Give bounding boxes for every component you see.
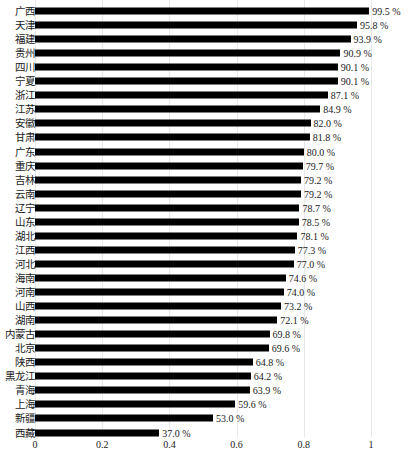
bar-row: 湖北78.1 % xyxy=(0,229,408,243)
x-axis-tick-label: 0.8 xyxy=(298,439,311,451)
category-label: 青海 xyxy=(15,385,35,396)
bar-row: 重庆79.7 % xyxy=(0,159,408,173)
bar-value-label: 69.6 % xyxy=(269,343,300,354)
bar xyxy=(35,359,253,366)
bar-value-label: 69.8 % xyxy=(270,329,301,340)
bar-row: 四川90.1 % xyxy=(0,60,408,74)
bar xyxy=(35,106,320,113)
bar-row: 山西73.2 % xyxy=(0,299,408,313)
bar-value-label: 90.1 % xyxy=(338,76,369,87)
category-label: 海南 xyxy=(15,272,35,283)
bar-value-label: 77.3 % xyxy=(295,244,326,255)
category-label: 江苏 xyxy=(15,104,35,115)
bar xyxy=(35,260,294,267)
category-label: 广东 xyxy=(15,146,35,157)
category-label: 陕西 xyxy=(15,357,35,368)
bar-row: 福建93.9 % xyxy=(0,32,408,46)
bar xyxy=(35,64,338,71)
bar-value-label: 80.0 % xyxy=(304,146,335,157)
bar-value-label: 64.8 % xyxy=(253,357,284,368)
bar-value-label: 81.8 % xyxy=(310,132,341,143)
bar xyxy=(35,134,310,141)
bar-row: 陕西64.8 % xyxy=(0,355,408,369)
category-label: 湖南 xyxy=(15,315,35,326)
bar xyxy=(35,232,297,239)
bar-row: 辽宁78.7 % xyxy=(0,201,408,215)
category-label: 云南 xyxy=(15,188,35,199)
bar-row: 湖南72.1 % xyxy=(0,313,408,327)
x-axis-tick-label: 1 xyxy=(369,439,374,451)
bar xyxy=(35,429,159,436)
category-label: 重庆 xyxy=(15,160,35,171)
bar-value-label: 90.9 % xyxy=(340,48,371,59)
bar-value-label: 59.6 % xyxy=(235,399,266,410)
bar xyxy=(35,190,301,197)
bar-value-label: 78.7 % xyxy=(299,202,330,213)
bar-row: 广西99.5 % xyxy=(0,4,408,18)
bar-value-label: 64.2 % xyxy=(251,371,282,382)
category-label: 浙江 xyxy=(15,90,35,101)
category-label: 四川 xyxy=(15,62,35,73)
category-label: 江西 xyxy=(15,244,35,255)
category-label: 广西 xyxy=(15,6,35,17)
bar-row: 山东78.5 % xyxy=(0,215,408,229)
x-axis-tick-label: 0 xyxy=(33,439,38,451)
category-label: 辽宁 xyxy=(15,202,35,213)
bar-value-label: 63.9 % xyxy=(250,385,281,396)
bar-row: 贵州90.9 % xyxy=(0,46,408,60)
bar xyxy=(35,148,304,155)
bar xyxy=(35,246,295,253)
bar-value-label: 78.1 % xyxy=(297,230,328,241)
bar xyxy=(35,162,303,169)
category-label: 黑龙江 xyxy=(5,371,35,382)
bar xyxy=(35,218,299,225)
bar-value-label: 53.0 % xyxy=(213,413,244,424)
category-label: 山西 xyxy=(15,301,35,312)
bar xyxy=(35,317,277,324)
bar-value-label: 73.2 % xyxy=(281,301,312,312)
bar xyxy=(35,331,270,338)
bar-value-label: 74.0 % xyxy=(284,287,315,298)
bar-value-label: 79.2 % xyxy=(301,188,332,199)
bar xyxy=(35,50,340,57)
bar-value-label: 95.8 % xyxy=(357,20,388,31)
bar-row: 甘肃81.8 % xyxy=(0,130,408,144)
bar-row: 宁夏90.1 % xyxy=(0,74,408,88)
category-label: 天津 xyxy=(15,20,35,31)
bar-value-label: 74.6 % xyxy=(286,272,317,283)
bar-value-label: 90.1 % xyxy=(338,62,369,73)
bar-row: 北京69.6 % xyxy=(0,341,408,355)
bar-row: 新疆53.0 % xyxy=(0,411,408,425)
category-label: 贵州 xyxy=(15,48,35,59)
category-label: 河北 xyxy=(15,258,35,269)
bar-row: 内蒙古69.8 % xyxy=(0,327,408,341)
category-label: 宁夏 xyxy=(15,76,35,87)
bar xyxy=(35,373,251,380)
x-axis: 00.20.40.60.81 xyxy=(0,437,408,463)
bar-value-label: 77.0 % xyxy=(294,258,325,269)
bar-row: 江西77.3 % xyxy=(0,243,408,257)
bar xyxy=(35,8,369,15)
bar-value-label: 84.9 % xyxy=(320,104,351,115)
bar-row: 黑龙江64.2 % xyxy=(0,369,408,383)
category-label: 甘肃 xyxy=(15,132,35,143)
bar xyxy=(35,289,284,296)
bar-row: 青海63.9 % xyxy=(0,383,408,397)
bar-value-label: 78.5 % xyxy=(299,216,330,227)
x-axis-tick-label: 0.4 xyxy=(163,439,176,451)
bar-value-label: 79.2 % xyxy=(301,174,332,185)
bar-row: 云南79.2 % xyxy=(0,187,408,201)
bar-row: 天津95.8 % xyxy=(0,18,408,32)
bar-chart: 广西99.5 %天津95.8 %福建93.9 %贵州90.9 %四川90.1 %… xyxy=(0,0,408,463)
category-label: 吉林 xyxy=(15,174,35,185)
category-label: 内蒙古 xyxy=(5,329,35,340)
category-label: 福建 xyxy=(15,34,35,45)
category-label: 新疆 xyxy=(15,413,35,424)
bar-value-label: 72.1 % xyxy=(277,315,308,326)
bar xyxy=(35,36,351,43)
bar-value-label: 82.0 % xyxy=(311,118,342,129)
bar-row: 浙江87.1 % xyxy=(0,88,408,102)
bar xyxy=(35,176,301,183)
category-label: 河南 xyxy=(15,287,35,298)
bar xyxy=(35,120,311,127)
